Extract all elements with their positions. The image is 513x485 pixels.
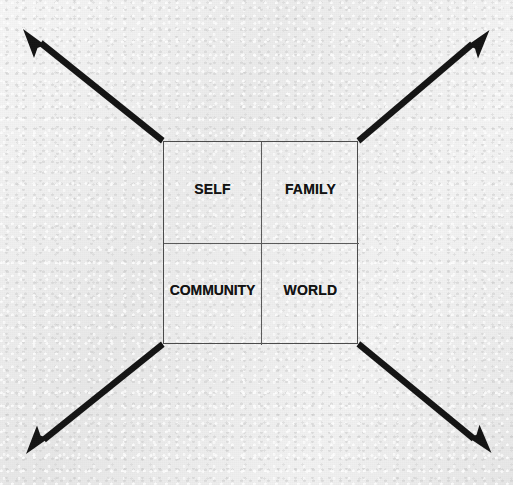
quadrant-family[interactable]: FAMILY	[262, 142, 359, 244]
quadrant-label-world: WORLD	[284, 283, 338, 297]
quadrant-label-community: COMMUNITY	[170, 283, 255, 297]
diagram-canvas: SELF FAMILY COMMUNITY WORLD	[0, 0, 513, 485]
quadrant-community[interactable]: COMMUNITY	[164, 244, 262, 345]
arrow-bottom-right	[357, 341, 492, 453]
quadrant-label-self: SELF	[194, 182, 231, 196]
arrow-bottom-left	[26, 342, 165, 455]
quadrant-label-family: FAMILY	[285, 182, 336, 196]
quadrant-self[interactable]: SELF	[164, 142, 262, 244]
arrow-top-left	[23, 29, 165, 143]
quadrant-matrix: SELF FAMILY COMMUNITY WORLD	[163, 141, 358, 344]
arrow-top-right	[357, 30, 490, 144]
quadrant-world[interactable]: WORLD	[262, 244, 359, 345]
